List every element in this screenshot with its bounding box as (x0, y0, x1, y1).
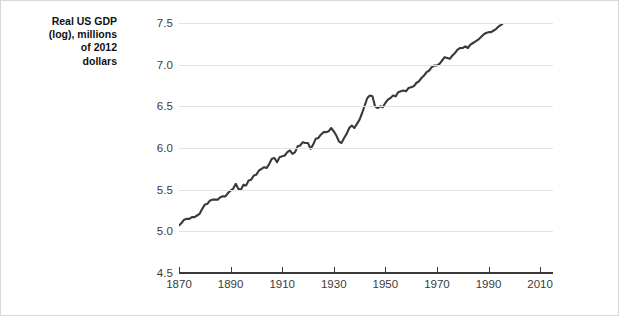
x-tick-mark-2010 (540, 267, 541, 273)
y-axis-title-line-1: (log), millions (19, 28, 117, 41)
x-tick-label-1990: 1990 (476, 278, 502, 290)
x-tick-label-1870: 1870 (166, 278, 192, 290)
gdp-line-path (179, 23, 553, 226)
gridline-7.0 (179, 65, 553, 66)
x-tick-mark-1910 (282, 267, 283, 273)
figure-panel: Real US GDP(log), millionsof 2012dollars… (0, 0, 619, 316)
y-tick-label-6.5: 6.5 (157, 100, 173, 112)
gridline-5.5 (179, 190, 553, 191)
x-tick-label-1950: 1950 (373, 278, 399, 290)
x-tick-label-1890: 1890 (218, 278, 244, 290)
x-tick-mark-1970 (437, 267, 438, 273)
y-axis-title-line-2: of 2012 (19, 41, 117, 54)
x-tick-label-1910: 1910 (269, 278, 295, 290)
gridline-5.0 (179, 231, 553, 232)
gridline-6.5 (179, 106, 553, 107)
y-tick-label-5.5: 5.5 (157, 184, 173, 196)
y-axis-title-line-3: dollars (19, 55, 117, 68)
x-tick-mark-1930 (334, 267, 335, 273)
x-axis-line (179, 272, 553, 274)
y-axis-title-line-0: Real US GDP (19, 15, 117, 28)
y-tick-label-7.5: 7.5 (157, 17, 173, 29)
x-tick-mark-1890 (231, 267, 232, 273)
y-tick-label-6.0: 6.0 (157, 142, 173, 154)
x-tick-mark-1870 (179, 267, 180, 273)
x-tick-label-1970: 1970 (424, 278, 450, 290)
plot-area (179, 23, 553, 273)
x-tick-mark-1990 (489, 267, 490, 273)
x-tick-mark-1950 (385, 267, 386, 273)
gridline-6.0 (179, 148, 553, 149)
x-tick-label-1930: 1930 (321, 278, 347, 290)
y-axis-tick-labels: 7.57.06.56.05.55.04.5 (121, 23, 173, 273)
x-tick-label-2010: 2010 (527, 278, 553, 290)
y-tick-label-7.0: 7.0 (157, 59, 173, 71)
gridline-7.5 (179, 23, 553, 24)
y-tick-label-5.0: 5.0 (157, 225, 173, 237)
y-axis-title: Real US GDP(log), millionsof 2012dollars (19, 15, 117, 68)
